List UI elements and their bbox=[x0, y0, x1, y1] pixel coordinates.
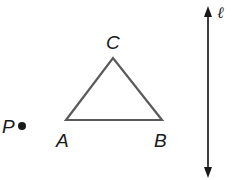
triangle-abc bbox=[66, 58, 162, 120]
label-p: P bbox=[2, 117, 15, 136]
label-line-l: ℓ bbox=[217, 5, 224, 21]
arrow-down-icon bbox=[204, 167, 212, 178]
label-a: A bbox=[56, 131, 69, 150]
arrow-up-icon bbox=[204, 6, 212, 17]
label-b: B bbox=[154, 131, 167, 150]
label-c: C bbox=[106, 33, 120, 52]
diagram-canvas: P A B C ℓ bbox=[0, 0, 236, 180]
geometry-svg bbox=[0, 0, 236, 180]
point-p-dot bbox=[18, 122, 26, 130]
